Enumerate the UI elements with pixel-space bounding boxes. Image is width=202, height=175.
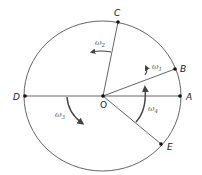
omega-1-label: ω1 <box>152 62 162 72</box>
segment-OC <box>103 22 118 96</box>
omega-3-label: ω3 <box>55 110 66 120</box>
omega-labels: ω1ω2ω3ω4 <box>55 38 162 120</box>
diagram-svg: ABCDEO ω1ω2ω3ω4 <box>0 0 202 175</box>
omega-4-label: ω4 <box>148 104 159 114</box>
point-E-marker <box>159 142 163 146</box>
point-O-marker <box>101 94 105 98</box>
point-labels: ABCDEO <box>13 8 192 152</box>
omega-2-label: ω2 <box>95 38 106 48</box>
point-D-label: D <box>13 92 20 102</box>
radius-lines <box>25 22 180 144</box>
point-E-label: E <box>167 142 173 152</box>
point-C-label: C <box>114 8 121 18</box>
point-C-marker <box>116 20 120 24</box>
omega2-arrow <box>92 51 111 52</box>
omega3-arrow <box>67 97 82 123</box>
point-B-label: B <box>180 64 186 74</box>
rotation-diagram: ABCDEO ω1ω2ω3ω4 <box>0 0 202 175</box>
center-O-label: O <box>100 100 107 110</box>
point-B-marker <box>173 67 177 71</box>
point-A-marker <box>178 94 182 98</box>
omega4-arrow <box>136 88 145 122</box>
segment-OB <box>103 69 175 96</box>
point-A-label: A <box>185 92 192 102</box>
point-markers <box>23 20 182 146</box>
point-D-marker <box>23 94 27 98</box>
omega1-arrow <box>145 67 147 75</box>
